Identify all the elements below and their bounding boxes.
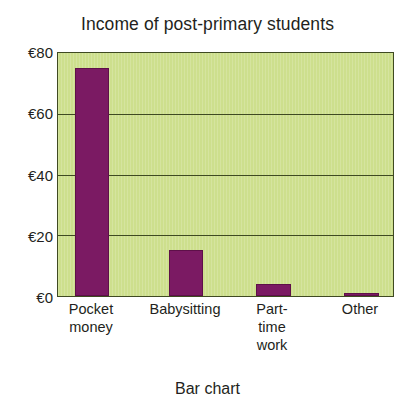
bar-babysitting[interactable]	[169, 250, 203, 296]
y-tick-label-40: €40	[1, 166, 53, 183]
bar-part-time-work[interactable]	[256, 284, 291, 296]
chart-caption: Bar chart	[0, 380, 415, 398]
x-tick-label-pocket-money: Pocket money	[46, 300, 136, 336]
bar-pocket-money[interactable]	[75, 68, 109, 296]
chart-title: Income of post-primary students	[0, 14, 415, 35]
x-tick-label-other: Other	[320, 300, 400, 318]
y-tick-label-60: €60	[1, 105, 53, 122]
x-tick-label-part-time-work: Part-time work	[244, 300, 300, 354]
x-axis-tick-labels: Pocket money Babysitting Part-time work …	[57, 300, 394, 380]
y-axis-tick-labels: €80 €60 €40 €20 €0	[0, 52, 53, 297]
bar-chart-figure: Income of post-primary students €80 €60 …	[0, 0, 415, 416]
y-tick-label-20: €20	[1, 227, 53, 244]
y-tick-label-80: €80	[1, 44, 53, 61]
bar-other[interactable]	[344, 293, 379, 296]
plot-area	[57, 52, 394, 297]
x-tick-label-babysitting: Babysitting	[131, 300, 239, 318]
